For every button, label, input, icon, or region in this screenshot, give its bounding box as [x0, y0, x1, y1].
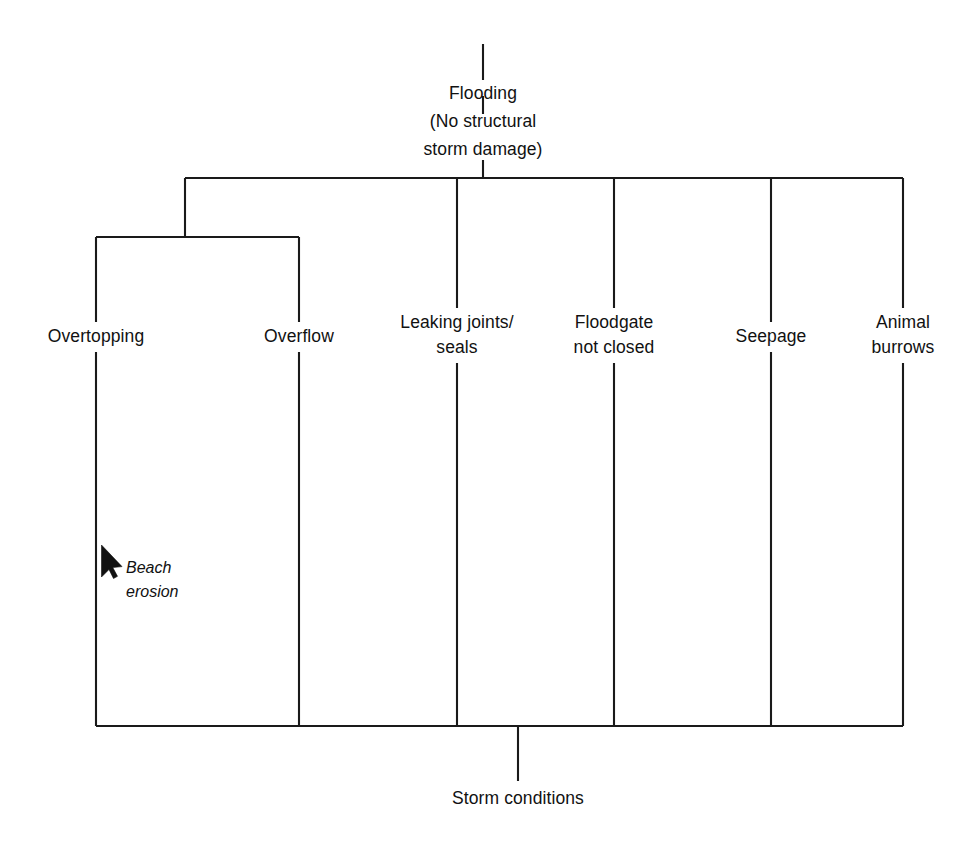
fault-tree-diagram: Flooding (No structural storm damage) Ov… — [0, 0, 980, 842]
node-animal-burrows: Animal burrows — [803, 310, 980, 360]
annotation-beach-erosion: Beach erosion — [126, 556, 246, 604]
node-flooding: Flooding (No structural storm damage) — [333, 79, 633, 163]
node-overtopping: Overtopping — [0, 324, 196, 349]
arrow-cursor-icon — [102, 545, 123, 579]
node-storm-conditions: Storm conditions — [368, 786, 668, 811]
